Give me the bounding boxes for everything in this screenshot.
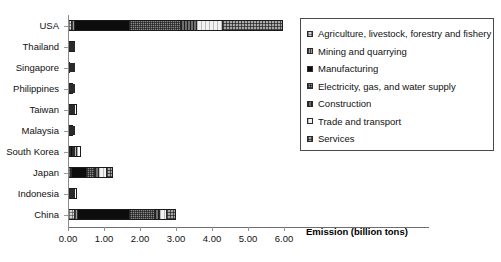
bar-segment [130, 21, 181, 30]
category-label: South Korea [0, 147, 64, 157]
legend-swatch-icon [307, 83, 313, 89]
legend-label: Services [318, 133, 354, 144]
x-axis-tick-label: 3.00 [167, 233, 186, 244]
bar-segment [74, 42, 75, 51]
x-axis-tick-label: 4.00 [203, 233, 222, 244]
category-label: Taiwan [0, 105, 64, 115]
category-label: Thailand [0, 42, 64, 52]
bar-taiwan [68, 104, 77, 115]
legend-item: Agriculture, livestock, forestry and fis… [307, 25, 493, 43]
x-axis-tick [248, 227, 249, 231]
y-axis-tick [64, 152, 68, 153]
bar-segment [87, 168, 95, 177]
y-axis-tick [64, 194, 68, 195]
x-axis-tick [176, 227, 177, 231]
category-label: Malaysia [0, 126, 64, 136]
legend-swatch-icon [307, 136, 313, 142]
legend-label: Mining and quarrying [318, 46, 407, 57]
legend-item: Mining and quarrying [307, 43, 493, 61]
x-axis-tick-label: 1.00 [95, 233, 114, 244]
y-axis-tick [64, 47, 68, 48]
bar-segment [74, 84, 75, 93]
bar-segment [130, 210, 155, 219]
bar-segment [75, 21, 130, 30]
legend-swatch-icon [307, 66, 313, 72]
y-axis-tick [64, 68, 68, 69]
y-axis-tick [64, 110, 68, 111]
category-label: China [0, 210, 64, 220]
y-axis-tick [64, 26, 68, 27]
bar-segment [72, 168, 87, 177]
legend-label: Construction [318, 98, 371, 109]
chart-legend: Agriculture, livestock, forestry and fis… [300, 18, 494, 151]
bar-segment [107, 168, 112, 177]
bar-japan [68, 167, 113, 178]
legend-swatch-icon [307, 48, 313, 54]
category-label: Indonesia [0, 189, 64, 199]
y-axis-tick [64, 131, 68, 132]
legend-label: Agriculture, livestock, forestry and fis… [318, 28, 491, 39]
bar-indonesia [68, 188, 77, 199]
x-axis-tick-label: 5.00 [239, 233, 258, 244]
bar-segment [167, 210, 175, 219]
bar-segment [197, 21, 223, 30]
x-axis-tick [68, 227, 69, 231]
x-axis-tick-label: 6.00 [275, 233, 294, 244]
emission-stacked-bar-chart: USAThailandSingaporePhilippinesTaiwanMal… [0, 0, 501, 262]
legend-item: Construction [307, 95, 493, 113]
x-axis-tick-label: 0.00 [59, 233, 78, 244]
bar-segment [223, 21, 281, 30]
x-axis-tick-label: 2.00 [131, 233, 150, 244]
legend-swatch-icon [307, 101, 313, 107]
category-label: USA [0, 21, 64, 31]
y-axis-tick [64, 215, 68, 216]
category-axis: USAThailandSingaporePhilippinesTaiwanMal… [0, 15, 64, 225]
y-axis-tick [64, 89, 68, 90]
bar-china [68, 209, 176, 220]
bar-segment [78, 210, 130, 219]
category-label: Philippines [0, 84, 64, 94]
bar-segment [74, 63, 75, 72]
bar-usa [68, 20, 283, 31]
category-label: Japan [0, 168, 64, 178]
legend-swatch-icon [307, 118, 313, 124]
legend-label: Electricity, gas, and water supply [318, 81, 456, 92]
legend-item: Electricity, gas, and water supply [307, 78, 493, 96]
bar-south-korea [68, 146, 81, 157]
x-axis-tick [284, 227, 285, 231]
bar-segment [160, 210, 167, 219]
bar-thailand [68, 41, 75, 52]
legend-item: Trade and transport [307, 113, 493, 131]
category-label: Singapore [0, 63, 64, 73]
bar-segment [99, 168, 107, 177]
x-axis-tick [140, 227, 141, 231]
legend-item: Manufacturing [307, 60, 493, 78]
y-axis-tick [64, 173, 68, 174]
y-axis-line [68, 15, 69, 227]
plot-area [68, 15, 284, 225]
legend-label: Manufacturing [318, 63, 378, 74]
x-axis-tick [212, 227, 213, 231]
bar-segment [181, 21, 198, 30]
bar-segment [74, 126, 75, 135]
legend-swatch-icon [307, 31, 313, 37]
x-axis-title: Emission (billion tons) [306, 226, 408, 237]
legend-label: Trade and transport [318, 116, 401, 127]
legend-item: Services [307, 130, 493, 148]
x-axis-tick [104, 227, 105, 231]
